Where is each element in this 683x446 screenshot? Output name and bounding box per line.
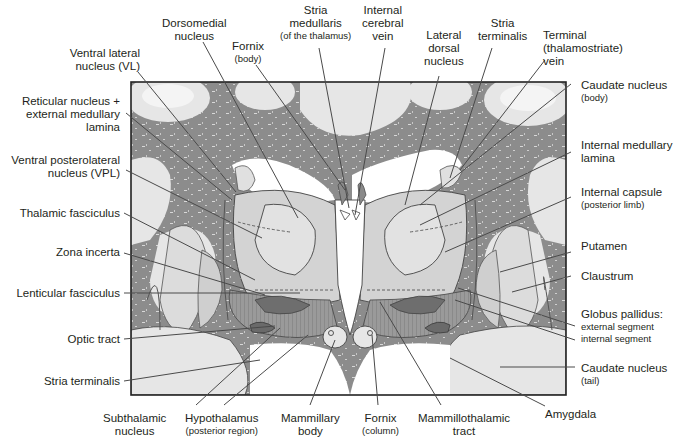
anatomy-diagram: Dorsomedial nucleus Fornix (body) Stria … bbox=[0, 0, 683, 446]
label-reticular-nucleus: Reticular nucleus + external medullary l… bbox=[22, 95, 120, 134]
label-internal-cerebral-vein: Internal cerebral vein bbox=[362, 4, 404, 43]
label-fornix-column: Fornix (column) bbox=[362, 412, 399, 437]
label-lateral-dorsal-nucleus: Lateral dorsal nucleus bbox=[424, 29, 464, 68]
label-dorsomedial-nucleus: Dorsomedial nucleus bbox=[162, 17, 227, 43]
label-ventral-posterolateral-nucleus: Ventral posterolateral nucleus (VPL) bbox=[11, 154, 120, 180]
label-amygdala: Amygdala bbox=[545, 408, 596, 421]
label-mammillary-body: Mammillary body bbox=[281, 412, 340, 438]
label-fornix-body: Fornix (body) bbox=[232, 40, 264, 65]
label-zona-incerta: Zona incerta bbox=[56, 246, 120, 259]
label-mammillothalamic-tract: Mammillothalamic tract bbox=[418, 412, 510, 438]
label-stria-medullaris: Stria medullaris (of the thalamus) bbox=[280, 4, 351, 42]
label-terminal-thalamostriate-vein: Terminal (thalamostriate) vein bbox=[543, 29, 623, 68]
label-ventral-lateral-nucleus: Ventral lateral nucleus (VL) bbox=[70, 47, 140, 73]
label-claustrum: Claustrum bbox=[581, 270, 633, 283]
label-caudate-nucleus-body: Caudate nucleus (body) bbox=[581, 79, 667, 104]
label-lenticular-fasciculus: Lenticular fasciculus bbox=[16, 287, 120, 300]
label-hypothalamus-posterior: Hypothalamus (posterior region) bbox=[185, 412, 259, 437]
label-caudate-nucleus-tail: Caudate nucleus (tail) bbox=[581, 362, 667, 387]
label-stria-terminalis-top: Stria terminalis bbox=[478, 17, 527, 43]
label-internal-capsule: Internal capsule (posterior limb) bbox=[581, 186, 662, 211]
label-putamen: Putamen bbox=[581, 240, 627, 253]
label-optic-tract: Optic tract bbox=[68, 333, 120, 346]
label-globus-pallidus: Globus pallidus: external segment intern… bbox=[581, 308, 663, 345]
label-internal-medullary-lamina: Internal medullary lamina bbox=[581, 139, 672, 165]
label-subthalamic-nucleus: Subthalamic nucleus bbox=[103, 412, 166, 438]
label-thalamic-fasciculus: Thalamic fasciculus bbox=[20, 207, 120, 220]
label-stria-terminalis-left: Stria terminalis bbox=[44, 375, 120, 388]
